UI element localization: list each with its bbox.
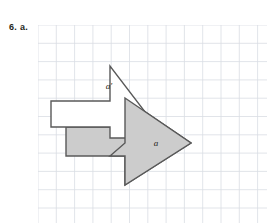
worksheet-page: 6. a. a′ a bbox=[0, 0, 267, 223]
page-title: 6. a. bbox=[9, 22, 28, 32]
label-a: a bbox=[154, 138, 159, 148]
grid-canvas: a′ a bbox=[38, 25, 267, 223]
label-a-prime: a′ bbox=[106, 81, 114, 91]
diagram-shapes: a′ a bbox=[38, 25, 267, 223]
